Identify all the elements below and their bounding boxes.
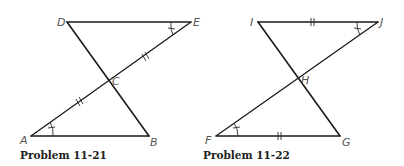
- caption-problem-11-21: Problem 11-21: [20, 149, 107, 161]
- figure-problem-11-22: I J H F G: [205, 16, 383, 149]
- segment-fj: [216, 22, 378, 136]
- segment-ae: [31, 22, 191, 136]
- diagram-canvas: D E C A B I J H F: [0, 0, 404, 166]
- point-label-a: A: [19, 134, 28, 147]
- point-label-d: D: [57, 16, 65, 29]
- point-label-f: F: [205, 134, 212, 147]
- figure-problem-11-21: D E C A B: [19, 16, 200, 149]
- angle-mark-e-icon: [168, 22, 175, 35]
- segment-ig: [258, 22, 340, 136]
- point-label-i: I: [250, 16, 253, 29]
- point-label-b: B: [150, 136, 158, 149]
- angle-mark-j-icon: [354, 22, 361, 35]
- point-label-e: E: [193, 16, 200, 29]
- point-label-g: G: [342, 136, 351, 149]
- point-label-c: C: [112, 75, 120, 88]
- angle-mark-a-icon: [48, 122, 55, 136]
- caption-problem-11-22: Problem 11-22: [203, 149, 290, 161]
- point-label-j: J: [378, 16, 383, 29]
- point-label-h: H: [301, 74, 309, 87]
- segment-db: [67, 22, 149, 136]
- angle-mark-f-icon: [233, 123, 240, 136]
